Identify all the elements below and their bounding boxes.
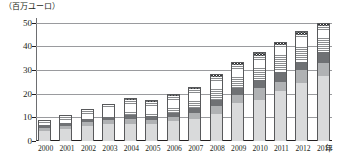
stacked-bar-chart: （百万ユーロ） 01020304050 20002001200220032004…	[0, 0, 338, 165]
x-tick-label: 2007	[188, 143, 201, 157]
x-tick-label: 2000	[38, 143, 51, 157]
bar-segment	[59, 115, 72, 123]
bar-segment	[274, 91, 287, 141]
bar-segment	[295, 62, 308, 70]
bar-segment	[317, 76, 330, 141]
bar-segment	[274, 72, 287, 81]
bar-column	[102, 104, 115, 141]
y-axis-unit-label: （百万ユーロ）	[4, 2, 60, 12]
x-tick-label: 2006	[167, 143, 180, 157]
bar-column	[145, 100, 158, 141]
bar-segment	[317, 63, 330, 76]
bar-column	[317, 23, 330, 141]
bar-segment	[167, 121, 180, 141]
bar-segment	[210, 114, 223, 141]
bar-column	[59, 115, 72, 141]
bar-segment	[188, 89, 201, 108]
bar-segment	[102, 104, 115, 117]
bar-segment	[295, 35, 308, 62]
bar-column	[274, 42, 287, 141]
bar-segment	[38, 131, 51, 141]
bar-segment	[102, 124, 115, 141]
y-tick-mark	[32, 117, 36, 118]
x-tick-label: 2004	[124, 143, 137, 157]
bar-segment	[231, 88, 244, 95]
bar-column	[124, 98, 137, 141]
x-tick-label: 2005	[145, 143, 158, 157]
bar-segment	[81, 126, 94, 141]
y-tick-label: 40	[2, 42, 32, 51]
bar-column	[188, 87, 201, 141]
plot-area	[36, 18, 332, 141]
bar-column	[295, 31, 308, 141]
bar-segment	[295, 70, 308, 83]
x-tick-label: 2009	[231, 143, 244, 157]
bar-segment	[210, 77, 223, 99]
bar-column	[81, 109, 94, 141]
bar-segment	[145, 102, 158, 116]
bar-segment	[253, 56, 266, 80]
y-tick-label: 10	[2, 113, 32, 122]
x-tick-label: 2002	[81, 143, 94, 157]
bar-segment	[124, 124, 137, 141]
y-tick-mark	[32, 94, 36, 95]
bar-column	[231, 62, 244, 141]
bar-column	[167, 94, 180, 141]
bar-segment	[167, 96, 180, 113]
y-tick-mark	[32, 46, 36, 47]
bar-segment	[210, 106, 223, 114]
x-tick-label: 2001	[59, 143, 72, 157]
y-tick-mark	[32, 70, 36, 71]
bar-segment	[145, 124, 158, 141]
bar-segment	[317, 26, 330, 52]
x-tick-label: 2003	[102, 143, 115, 157]
x-axis-labels: 2000200120022003200420052006200720082009…	[36, 143, 332, 157]
y-tick-label: 50	[2, 19, 32, 28]
bar-segment	[231, 95, 244, 103]
bar-column	[210, 74, 223, 141]
bar-segment	[274, 45, 287, 72]
bar-segment	[253, 88, 266, 100]
bar-column	[253, 52, 266, 141]
y-tick-mark	[32, 23, 36, 24]
bar-column	[38, 120, 51, 141]
bar-segment	[317, 52, 330, 63]
bar-segment	[253, 80, 266, 88]
x-tick-label: 2012	[295, 143, 308, 157]
x-axis-unit-label: 年	[325, 143, 333, 155]
bar-segment	[231, 65, 244, 87]
bar-segment	[124, 100, 137, 115]
bar-segment	[81, 109, 94, 119]
bar-segment	[59, 129, 72, 141]
bar-segment	[253, 100, 266, 141]
y-tick-mark	[32, 141, 36, 142]
bar-segment	[188, 119, 201, 141]
x-tick-label: 2008	[210, 143, 223, 157]
x-tick-label: 2010	[253, 143, 266, 157]
bar-group	[36, 18, 332, 141]
y-tick-label: 0	[2, 137, 32, 146]
bar-segment	[295, 83, 308, 141]
y-tick-label: 30	[2, 66, 32, 75]
x-tick-label: 2011	[274, 143, 287, 157]
y-tick-label: 20	[2, 90, 32, 99]
bar-segment	[231, 103, 244, 141]
bar-segment	[274, 82, 287, 91]
